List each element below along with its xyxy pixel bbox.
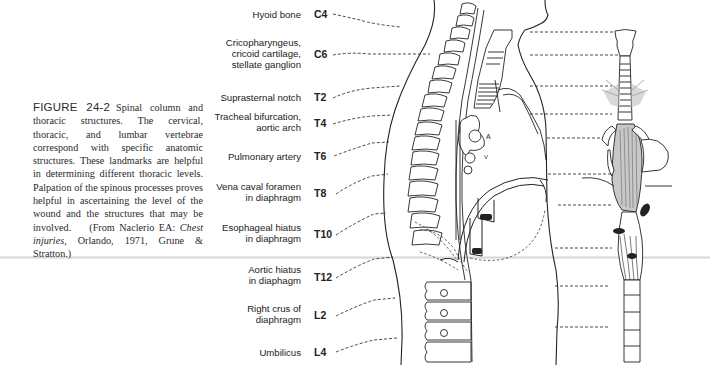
heart-letter-a: A: [486, 133, 491, 140]
esophagus-anterior: [612, 124, 642, 212]
heart-letter-v: V: [484, 154, 488, 160]
trachea-sagittal: [474, 30, 512, 108]
leader-lines: [333, 14, 618, 352]
anatomy-illustration: A V: [0, 0, 710, 365]
